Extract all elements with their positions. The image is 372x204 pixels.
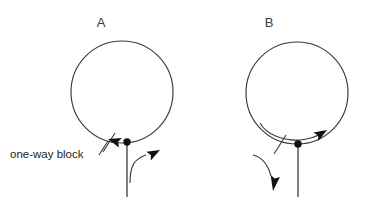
panel-a: A one-way block: [10, 15, 173, 197]
panel-b-exit-arrow-icon: [268, 175, 280, 191]
one-way-block-leader-line: [99, 141, 108, 155]
panel-b-inner-reentry-arc: [260, 123, 324, 140]
panel-a-branch-arrow-icon: [146, 146, 162, 161]
panel-a-junction-dot: [123, 138, 130, 145]
figure-root: A one-way block: [0, 0, 372, 204]
one-way-block-label-a: one-way block: [10, 148, 84, 160]
panel-b-junction-dot: [294, 140, 301, 147]
reentry-circuit-diagram: A one-way block: [0, 0, 372, 204]
panel-b: B: [246, 15, 348, 197]
panel-a-letter: A: [97, 15, 106, 30]
panel-a-branch-curve: [130, 155, 146, 183]
panel-b-circuit-ring: [246, 42, 348, 144]
panel-b-letter: B: [265, 15, 274, 30]
panel-a-circuit-ring: [71, 41, 173, 143]
panel-b-exit-curve: [253, 155, 271, 176]
